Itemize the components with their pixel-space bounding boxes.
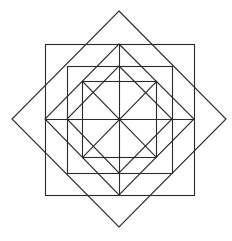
figure-strokes bbox=[12, 11, 226, 227]
geometric-figure bbox=[0, 0, 232, 241]
